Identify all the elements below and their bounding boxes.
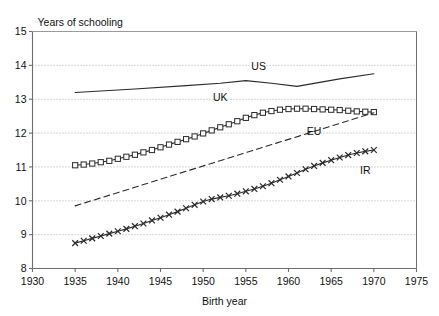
series-marker-uk-7 bbox=[132, 152, 137, 157]
x-tick-label-1930: 1930 bbox=[21, 275, 45, 287]
series-marker-uk-23 bbox=[269, 108, 274, 113]
series-marker-uk-1 bbox=[81, 162, 86, 167]
series-marker-ir-9 bbox=[149, 218, 155, 224]
series-marker-uk-25 bbox=[286, 106, 291, 111]
y-tick-label-12: 12 bbox=[15, 127, 27, 139]
series-marker-uk-18 bbox=[226, 122, 231, 127]
series-marker-uk-26 bbox=[294, 106, 299, 111]
x-tick-label-1970: 1970 bbox=[362, 275, 386, 287]
x-tick-label-1940: 1940 bbox=[106, 275, 130, 287]
series-line-us bbox=[75, 74, 374, 93]
series-marker-uk-9 bbox=[149, 147, 154, 152]
series-marker-uk-11 bbox=[166, 142, 171, 147]
series-marker-ir-25 bbox=[286, 174, 292, 180]
series-marker-uk-15 bbox=[201, 131, 206, 136]
series-marker-uk-12 bbox=[175, 139, 180, 144]
series-marker-uk-6 bbox=[124, 154, 129, 159]
series-marker-uk-24 bbox=[277, 107, 282, 112]
series-marker-uk-10 bbox=[158, 145, 163, 150]
series-marker-uk-5 bbox=[115, 156, 120, 161]
series-marker-ir-7 bbox=[132, 223, 138, 229]
series-label-eu: EU bbox=[307, 125, 322, 137]
schooling-line-chart: 8910111213141519301935194019451950195519… bbox=[0, 0, 439, 316]
series-marker-ir-13 bbox=[183, 205, 189, 211]
y-tick-label-11: 11 bbox=[16, 161, 27, 173]
series-marker-uk-13 bbox=[184, 137, 189, 142]
y-tick-label-10: 10 bbox=[15, 195, 27, 207]
series-marker-uk-34 bbox=[363, 109, 368, 114]
series-marker-uk-17 bbox=[218, 125, 223, 130]
x-tick-label-1935: 1935 bbox=[63, 275, 87, 287]
series-marker-uk-0 bbox=[73, 163, 78, 168]
series-marker-uk-16 bbox=[209, 128, 214, 133]
series-marker-uk-31 bbox=[337, 107, 342, 112]
series-marker-uk-22 bbox=[260, 110, 265, 115]
x-tick-label-1975: 1975 bbox=[405, 275, 429, 287]
series-marker-ir-23 bbox=[269, 180, 275, 186]
x-tick-label-1945: 1945 bbox=[149, 275, 173, 287]
series-marker-uk-32 bbox=[346, 108, 351, 113]
series-marker-ir-10 bbox=[158, 215, 164, 221]
series-marker-ir-26 bbox=[294, 170, 300, 176]
series-marker-uk-8 bbox=[141, 150, 146, 155]
y-tick-label-13: 13 bbox=[15, 93, 27, 105]
series-marker-ir-29 bbox=[320, 160, 326, 166]
series-marker-uk-33 bbox=[354, 109, 359, 114]
series-marker-uk-20 bbox=[243, 115, 248, 120]
y-tick-label-9: 9 bbox=[21, 228, 27, 240]
series-marker-ir-28 bbox=[311, 163, 317, 169]
series-marker-uk-3 bbox=[98, 160, 103, 165]
series-marker-uk-4 bbox=[107, 158, 112, 163]
series-marker-uk-14 bbox=[192, 134, 197, 139]
chart-canvas: 8910111213141519301935194019451950195519… bbox=[0, 0, 439, 316]
x-axis-title: Birth year bbox=[202, 295, 247, 307]
series-marker-uk-19 bbox=[235, 119, 240, 124]
series-marker-ir-8 bbox=[141, 221, 147, 227]
series-marker-uk-2 bbox=[90, 161, 95, 166]
y-tick-label-8: 8 bbox=[21, 262, 27, 274]
series-marker-ir-24 bbox=[277, 177, 283, 183]
x-tick-label-1955: 1955 bbox=[234, 275, 258, 287]
y-axis-title: Years of schooling bbox=[38, 16, 124, 28]
series-marker-ir-11 bbox=[166, 212, 172, 218]
series-marker-ir-14 bbox=[192, 202, 198, 208]
series-label-us: US bbox=[251, 60, 266, 72]
series-marker-uk-29 bbox=[320, 107, 325, 112]
series-marker-ir-22 bbox=[260, 183, 266, 189]
x-tick-label-1950: 1950 bbox=[191, 275, 215, 287]
series-label-ir: IR bbox=[360, 164, 371, 176]
series-marker-uk-28 bbox=[312, 106, 317, 111]
series-label-uk: UK bbox=[213, 91, 228, 103]
x-tick-label-1965: 1965 bbox=[319, 275, 343, 287]
series-marker-ir-12 bbox=[175, 209, 181, 215]
y-tick-label-14: 14 bbox=[15, 59, 27, 71]
series-marker-ir-30 bbox=[328, 157, 334, 163]
x-tick-label-1960: 1960 bbox=[277, 275, 301, 287]
series-marker-uk-30 bbox=[329, 107, 334, 112]
series-marker-uk-21 bbox=[252, 113, 257, 118]
series-marker-uk-27 bbox=[303, 106, 308, 111]
y-tick-label-15: 15 bbox=[15, 25, 27, 37]
